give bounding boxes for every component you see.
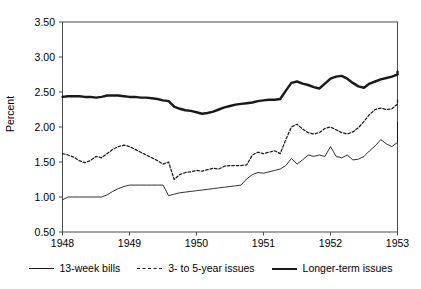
- legend-line-swatch-icon: [29, 265, 54, 272]
- legend-item-label: Longer-term issues: [303, 262, 393, 274]
- legend-item-label: 13-week bills: [60, 262, 121, 274]
- legend-item: 3- to 5-year issues: [137, 262, 254, 274]
- legend-line-swatch-icon: [272, 265, 297, 272]
- legend-line-swatch-icon: [137, 265, 162, 272]
- legend-item: Longer-term issues: [272, 262, 393, 274]
- legend-item: 13-week bills: [29, 262, 121, 274]
- plot-area: [0, 0, 421, 289]
- chart-figure: Percent 0.501.001.502.002.503.003.50 194…: [0, 0, 421, 289]
- legend-item-label: 3- to 5-year issues: [168, 262, 254, 274]
- plot-frame: [63, 22, 398, 232]
- chart-legend: 13-week bills3- to 5-year issuesLonger-t…: [0, 262, 421, 274]
